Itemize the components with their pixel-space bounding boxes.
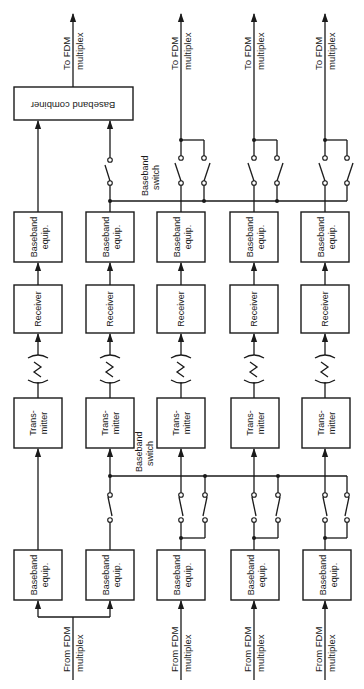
from-fdm-label-3a: From FDM [169,627,180,672]
transmitter-row: Trans-mitter Trans-mitter Trans-mitter T… [14,398,350,448]
svg-text:Baseband: Baseband [245,217,255,258]
fdm-protection-switching-diagram: To FDM multiplex To FDM multiplex To FDM… [0,0,364,689]
transmit-baseband-switch: Baseband switch [108,431,350,550]
svg-text:Trans-: Trans- [171,410,181,436]
radio-wave-icon [28,355,48,358]
receiver-ch1: Receiver [14,285,62,333]
baseband-combiner-label: Baseband combiner [31,100,116,111]
radio-wave-icon [315,355,335,358]
svg-text:Baseband: Baseband [172,555,182,596]
to-fdm-label-1b: multiplex [74,32,85,70]
output-arrows [73,14,325,140]
receiver-ch4: Receiver [230,285,278,333]
svg-text:mitter: mitter [39,412,49,435]
svg-text:equip.: equip. [112,225,122,250]
svg-text:equip.: equip. [40,563,50,588]
transmitter-ch3: Trans-mitter [157,398,205,448]
rx-baseband-equip-ch5: Basebandequip. [301,212,349,262]
radio-path-ch2 [100,334,120,398]
svg-text:Receiver: Receiver [249,291,259,327]
from-fdm-labels: From FDM multiplex From FDM multiplex Fr… [61,627,337,672]
transmitter-ch1: Trans-mitter [14,398,62,448]
tx-baseband-equip-ch2: Basebandequip. [86,550,134,600]
svg-text:Receiver: Receiver [176,291,186,327]
svg-text:Baseband: Baseband [172,217,182,258]
transmit-switch-label-a: Baseband [134,431,144,472]
from-fdm-label-5b: multiplex [326,634,337,672]
svg-text:Trans-: Trans- [28,410,38,436]
receiver-row: Receiver Receiver Receiver Receiver Rece… [14,285,349,333]
radio-path-ch4 [244,334,264,398]
to-fdm-labels: To FDM multiplex To FDM multiplex To FDM… [61,32,337,70]
svg-text:Receiver: Receiver [105,291,115,327]
from-fdm-label-1b: multiplex [74,634,85,672]
svg-text:equip.: equip. [183,563,193,588]
to-fdm-label-5b: multiplex [326,32,337,70]
svg-text:Baseband: Baseband [29,217,39,258]
radio-wave-icon [171,355,191,358]
transmitter-ch2: Trans-mitter [86,398,134,448]
radio-path-ch1 [28,334,48,398]
to-fdm-label-5a: To FDM [313,37,324,70]
radio-path-ch3 [171,334,191,398]
from-fdm-label-5a: From FDM [313,627,324,672]
from-fdm-label-4a: From FDM [242,627,253,672]
radio-path-ch5 [315,334,335,398]
svg-text:mitter: mitter [182,412,192,435]
svg-text:equip.: equip. [40,225,50,250]
transmit-switch-label-b: switch [145,441,155,466]
svg-text:Trans-: Trans- [245,410,255,436]
to-fdm-label-1a: To FDM [61,37,72,70]
from-fdm-label-1a: From FDM [61,627,72,672]
transmitter-ch4: Trans-mitter [231,398,279,448]
svg-text:equip.: equip. [183,225,193,250]
tx-baseband-equip-ch3: Basebandequip. [157,550,205,600]
rx-baseband-equip-ch1: Basebandequip. [14,212,62,262]
tx-baseband-equip-ch4: Basebandequip. [231,550,279,600]
svg-text:Baseband: Baseband [316,217,326,258]
rx-baseband-equip-ch2: Basebandequip. [86,212,134,262]
receiver-to-baseband-arrows [38,263,325,285]
svg-text:Baseband: Baseband [246,555,256,596]
radio-wave-icon [100,355,120,358]
receive-switch-label-a: Baseband [140,155,150,196]
tx-baseband-equip-ch5: Basebandequip. [303,550,351,600]
receive-baseband-equip-row: Basebandequip. Basebandequip. Basebandeq… [14,212,349,262]
svg-text:mitter: mitter [256,412,266,435]
svg-text:equip.: equip. [256,225,266,250]
svg-text:Baseband: Baseband [101,217,111,258]
svg-text:Trans-: Trans- [316,410,326,436]
svg-text:Receiver: Receiver [320,291,330,327]
receive-switch-label-b: switch [151,165,161,190]
receiver-ch3: Receiver [157,285,205,333]
svg-text:Baseband: Baseband [29,555,39,596]
to-fdm-label-3b: multiplex [182,32,193,70]
svg-text:Baseband: Baseband [318,555,328,596]
radio-wave-icon [244,355,264,358]
svg-text:equip.: equip. [112,563,122,588]
svg-text:equip.: equip. [327,225,337,250]
svg-text:mitter: mitter [111,412,121,435]
svg-text:equip.: equip. [329,563,339,588]
rx-baseband-equip-ch4: Basebandequip. [230,212,278,262]
transmitter-ch5: Trans-mitter [302,398,350,448]
rx-baseband-equip-ch3: Basebandequip. [157,212,205,262]
receiver-ch2: Receiver [86,285,134,333]
tx-baseband-equip-ch1: Basebandequip. [14,550,62,600]
svg-text:mitter: mitter [327,412,337,435]
receiver-ch5: Receiver [301,285,349,333]
svg-text:Receiver: Receiver [33,291,43,327]
to-fdm-label-4a: To FDM [242,37,253,70]
svg-text:Trans-: Trans- [100,410,110,436]
from-fdm-label-4b: multiplex [255,634,266,672]
svg-text:Baseband: Baseband [101,555,111,596]
baseband-combiner-block: Baseband combiner [14,87,133,120]
transmit-baseband-equip-row: Basebandequip. Basebandequip. Basebandeq… [14,550,351,600]
to-fdm-label-3a: To FDM [169,37,180,70]
to-fdm-label-4b: multiplex [255,32,266,70]
svg-text:equip.: equip. [257,563,267,588]
radio-path-row [28,334,335,398]
from-fdm-label-3b: multiplex [182,634,193,672]
